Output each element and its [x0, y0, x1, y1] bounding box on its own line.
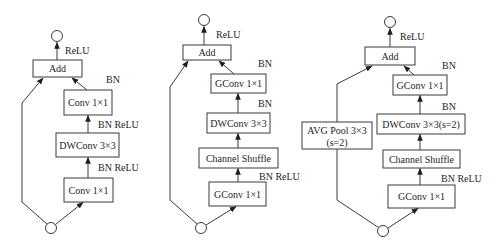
svg-text:Channel Shuffle: Channel Shuffle — [389, 154, 455, 165]
gconv1x1-bottom-node: GConv 1×1 — [209, 182, 266, 206]
svg-text:Add: Add — [49, 63, 66, 74]
svg-text:AVG Pool 3×3: AVG Pool 3×3 — [307, 125, 366, 136]
add-node: Add — [33, 60, 82, 77]
diagram-mobilenet-block: ReLU Add BN Conv 1×1 BN ReLU DWConv 3×3 … — [22, 31, 140, 234]
svg-text:GConv 1×1: GConv 1×1 — [398, 191, 445, 202]
svg-text:Add: Add — [198, 47, 215, 58]
channel-shuffle-node: Channel Shuffle — [383, 150, 460, 168]
output-activation-label: ReLU — [400, 31, 425, 42]
dwconv3x3-stride2-node: DWConv 3×3(s=2) — [377, 114, 465, 134]
input-node — [46, 223, 57, 234]
input-to-gconv-arrow — [388, 209, 418, 229]
gconv-to-add-arrow — [404, 66, 414, 75]
svg-text:GConv 1×1: GConv 1×1 — [215, 78, 262, 89]
add-node: Add — [183, 45, 231, 60]
svg-text:GConv 1×1: GConv 1×1 — [396, 80, 443, 91]
bn-label: BN — [258, 58, 272, 69]
input-to-conv-arrow — [56, 203, 84, 225]
gconv1x1-top-node: GConv 1×1 — [393, 75, 447, 95]
svg-text:Add: Add — [381, 51, 398, 62]
bn-label: BN — [442, 60, 456, 71]
gconv1x1-top-node: GConv 1×1 — [211, 74, 266, 93]
pool-to-add-arrow — [337, 66, 372, 122]
shortcut-arrow — [170, 61, 197, 224]
gconv-to-add-arrow — [219, 61, 234, 74]
conv1x1-bottom-node: Conv 1×1 — [64, 178, 113, 202]
conv-to-add-arrow — [72, 78, 87, 90]
bn-relu-label: BN ReLU — [441, 173, 483, 184]
svg-text:DWConv 3×3: DWConv 3×3 — [210, 118, 266, 129]
channel-shuffle-node: Channel Shuffle — [199, 148, 278, 168]
bn-label: BN — [442, 101, 456, 112]
add-node: Add — [365, 47, 415, 65]
svg-text:Conv 1×1: Conv 1×1 — [69, 185, 109, 196]
input-to-gconv-arrow — [206, 207, 236, 226]
diagram-shufflenet-unit-stride2: ReLU Add BN GConv 1×1 BN DWConv 3×3(s=2)… — [302, 17, 483, 237]
shortcut-arrow — [22, 78, 47, 224]
svg-text:DWConv 3×3(s=2): DWConv 3×3(s=2) — [382, 119, 460, 131]
architecture-figure: ReLU Add BN Conv 1×1 BN ReLU DWConv 3×3 … — [0, 0, 499, 251]
output-node — [385, 17, 396, 28]
diagram-shufflenet-unit: ReLU Add BN GConv 1×1 BN DWConv 3×3 Chan… — [170, 15, 301, 234]
output-node — [199, 15, 210, 26]
conv1x1-top-node: Conv 1×1 — [64, 90, 112, 115]
bn-relu-label: BN ReLU — [98, 162, 140, 173]
svg-text:Channel Shuffle: Channel Shuffle — [206, 153, 272, 164]
svg-text:DWConv 3×3: DWConv 3×3 — [59, 140, 115, 151]
dwconv3x3-node: DWConv 3×3 — [207, 113, 270, 133]
svg-text:GConv 1×1: GConv 1×1 — [214, 189, 261, 200]
output-node — [52, 31, 63, 42]
svg-text:(s=2): (s=2) — [326, 137, 347, 149]
avg-pool-node: AVG Pool 3×3 (s=2) — [302, 122, 372, 149]
input-node — [196, 223, 207, 234]
bn-label: BN — [106, 74, 120, 85]
shortcut-to-pool-line — [337, 149, 379, 228]
output-activation-label: ReLU — [216, 29, 241, 40]
output-activation-label: ReLU — [65, 45, 90, 56]
dwconv3x3-node: DWConv 3×3 — [56, 133, 119, 157]
svg-text:Conv 1×1: Conv 1×1 — [68, 97, 108, 108]
bn-relu-label: BN ReLU — [259, 171, 301, 182]
bn-label: BN — [258, 98, 272, 109]
bn-relu-label: BN ReLU — [98, 119, 140, 130]
gconv1x1-bottom-node: GConv 1×1 — [388, 185, 455, 208]
input-node — [378, 226, 389, 237]
